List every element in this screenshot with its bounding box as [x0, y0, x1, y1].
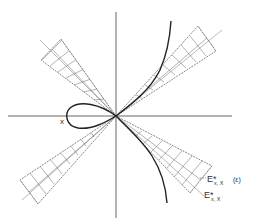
svg-text:(ε): (ε) [233, 176, 241, 184]
curve-upper-branch [116, 21, 171, 116]
line-label: E* x, X [204, 190, 221, 202]
diagram: x E* x, X (ε) E* x, X [0, 0, 257, 223]
tangent-lines [22, 30, 222, 200]
svg-text:x, X: x, X [214, 180, 224, 186]
curve [67, 21, 171, 203]
axes [8, 12, 232, 218]
cone-label: E* x, X (ε) [200, 174, 241, 186]
cone-upper-right [116, 26, 216, 116]
svg-text:x, X: x, X [211, 196, 221, 202]
point-x-label: x [60, 117, 64, 126]
